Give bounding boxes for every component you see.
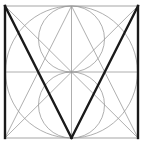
construction-guides <box>5 6 138 138</box>
letter-construction-diagram <box>0 0 143 144</box>
